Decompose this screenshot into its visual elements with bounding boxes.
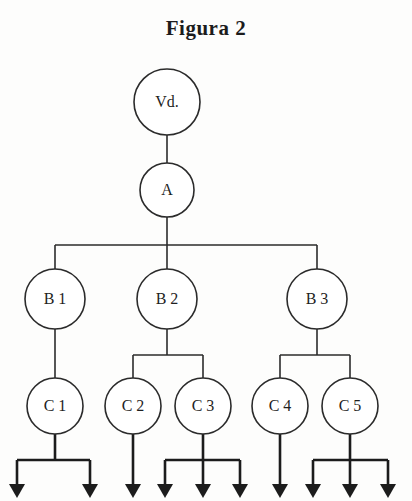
node-layer: Vd. A B 1 B 2 B 3 C 1 C 2 C 3 C 4 C 5: [25, 69, 378, 434]
arrow-head-c5-3: [380, 484, 396, 498]
arrow-head-c4-1: [272, 484, 288, 498]
arrow-head-c1-2: [82, 484, 98, 498]
node-b3-label: B 3: [306, 290, 329, 307]
node-c5-label: C 5: [339, 397, 362, 414]
arrow-head-c3-2: [195, 484, 211, 498]
node-c3-label: C 3: [192, 397, 215, 414]
node-b2-label: B 2: [156, 290, 179, 307]
edge-layer: [55, 135, 350, 378]
node-b1-label: B 1: [44, 290, 67, 307]
terminal-arrow-layer: [9, 434, 396, 498]
arrow-head-c5-1: [305, 484, 321, 498]
figure-container: Figura 2: [0, 0, 412, 501]
node-c1-label: C 1: [44, 397, 67, 414]
node-a-label: A: [161, 181, 173, 198]
hierarchy-diagram: Vd. A B 1 B 2 B 3 C 1 C 2 C 3 C 4 C 5: [0, 0, 412, 501]
arrow-head-c5-2: [342, 484, 358, 498]
arrow-head-c1-1: [9, 484, 25, 498]
node-c4-label: C 4: [269, 397, 292, 414]
arrow-head-c3-3: [232, 484, 248, 498]
node-vd-label: Vd.: [155, 93, 179, 110]
arrow-head-c2-1: [125, 484, 141, 498]
node-c2-label: C 2: [122, 397, 145, 414]
arrow-head-c3-1: [157, 484, 173, 498]
